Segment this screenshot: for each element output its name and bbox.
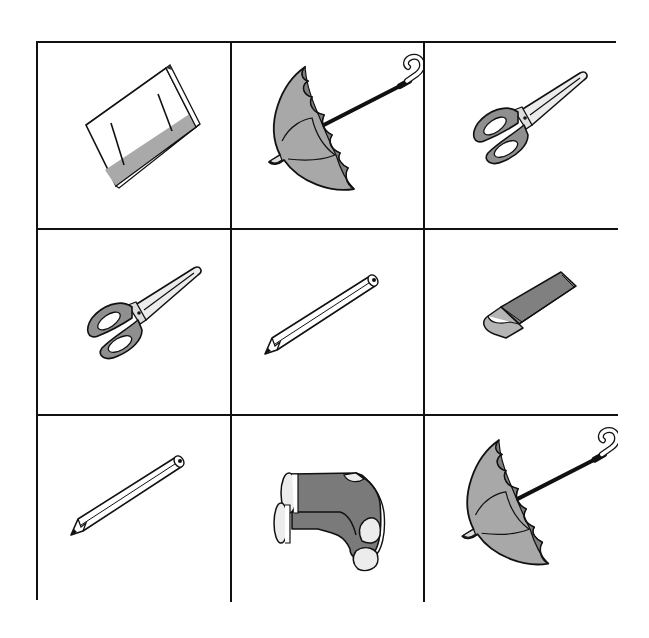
grid-cell-pencil[interactable]: pencil (38, 416, 232, 602)
book-icon (38, 43, 230, 228)
grid-cell-book[interactable]: book (38, 43, 232, 230)
grid-cell-pencil[interactable]: pencil (232, 230, 425, 416)
grid-cell-umbrella[interactable]: umbrella (425, 416, 618, 602)
umbrella-icon (232, 43, 423, 228)
umbrella-icon (425, 416, 618, 602)
scissors-icon (425, 43, 618, 228)
pencil-icon (38, 416, 230, 602)
picture-grid: book umbrella scissors scissors pencil e… (36, 41, 616, 600)
grid-cell-socks[interactable]: socks (232, 416, 425, 602)
grid-cell-eraser[interactable]: eraser (425, 230, 618, 416)
scissors-icon (38, 230, 230, 414)
grid-cell-umbrella[interactable]: umbrella (232, 43, 425, 230)
grid-cell-scissors[interactable]: scissors (425, 43, 618, 230)
socks-icon (232, 416, 423, 602)
eraser-icon (425, 230, 618, 414)
pencil-icon (232, 230, 423, 414)
grid-cell-scissors[interactable]: scissors (38, 230, 232, 416)
